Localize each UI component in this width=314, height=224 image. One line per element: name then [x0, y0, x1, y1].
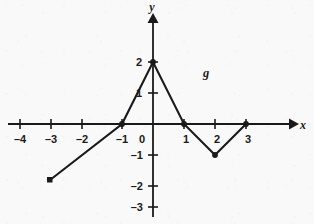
- y-axis-label: y: [147, 0, 155, 14]
- x-tick-label--4: –4: [14, 133, 27, 145]
- function-curve-g: [50, 62, 246, 180]
- y-tick-label--1: –1: [131, 149, 143, 161]
- y-tick-label-2: 2: [136, 56, 142, 68]
- x-tick-label--3: –3: [45, 133, 57, 145]
- y-tick-label--2: –2: [131, 180, 143, 192]
- point-3-0: [243, 121, 249, 127]
- x-tick-label-1: 1: [183, 133, 189, 145]
- x-tick-label--1: –1: [116, 133, 128, 145]
- function-label-g: g: [202, 66, 209, 80]
- graph-figure: –4 –3 –2 –1 1 2 3 0 2 1 –1 –2 –3 x y: [0, 0, 314, 224]
- x-tick-label-3: 3: [245, 133, 251, 145]
- point--3--2: [47, 177, 53, 183]
- point-2--1: [212, 152, 218, 158]
- x-tick-labels: –4 –3 –2 –1 1 2 3: [14, 133, 251, 145]
- x-tick-label--2: –2: [76, 133, 88, 145]
- x-axis-label: x: [299, 118, 306, 132]
- x-tick-label-2: 2: [214, 133, 220, 145]
- y-axis-arrow-icon: [148, 13, 159, 23]
- x-axis-arrow-icon: [289, 119, 299, 130]
- point-1-0: [181, 121, 187, 127]
- point-0-2: [150, 59, 156, 65]
- y-tick-label--3: –3: [131, 201, 143, 213]
- curve-points: [47, 59, 249, 182]
- coordinate-plane: –4 –3 –2 –1 1 2 3 0 2 1 –1 –2 –3 x y: [0, 0, 314, 224]
- point--1-0: [119, 121, 125, 127]
- origin-label: 0: [139, 133, 145, 145]
